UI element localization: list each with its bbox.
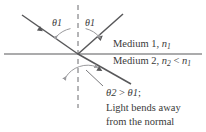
theta2-symbol: θ2 <box>106 87 116 98</box>
incident-ray <box>22 15 78 54</box>
theta-relation-terminator: ; <box>138 87 141 98</box>
theta2-leader-line <box>86 70 103 86</box>
medium-1-subscript: 1 <box>167 42 171 51</box>
theta-relation-operator: > <box>116 87 127 98</box>
note-line-2: Light bends away <box>106 103 181 114</box>
medium-2-label: Medium 2, n2 < n1 <box>113 56 191 67</box>
theta1-symbol-note: θ1 <box>128 87 138 98</box>
medium-1-label: Medium 1, n1 <box>113 39 171 50</box>
theta1-incident-arc <box>57 29 71 37</box>
medium-2-subscript-2: 1 <box>187 59 191 68</box>
note-line-3: from the normal <box>106 117 174 128</box>
theta1-reflected-label: θ1 <box>85 18 95 28</box>
theta1-incident-symbol: θ1 <box>52 17 62 28</box>
theta2-relation-label: θ2 > θ1; <box>106 88 141 99</box>
medium-1-prefix: Medium 1, <box>113 38 162 49</box>
medium-2-relation: < <box>171 55 182 66</box>
theta1-reflected-symbol: θ1 <box>85 17 95 28</box>
theta1-incident-label: θ1 <box>52 18 62 28</box>
refraction-diagram: θ1 θ1 Medium 1, n1 Medium 2, n2 < n1 θ2 … <box>0 0 206 132</box>
medium-2-prefix: Medium 2, <box>113 55 162 66</box>
